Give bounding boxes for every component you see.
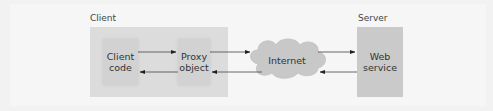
connections-layer <box>0 0 493 111</box>
internet-label: Internet <box>258 55 316 66</box>
